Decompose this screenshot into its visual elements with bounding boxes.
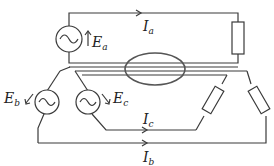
load-b	[38, 71, 270, 143]
arrow-up-icon	[85, 31, 91, 46]
load-a-resistor	[232, 22, 244, 54]
label-Eb: Eb	[3, 90, 20, 108]
load-c	[196, 75, 227, 130]
source-b	[35, 71, 60, 143]
label-Ec: Ec	[112, 90, 128, 108]
load-c-resistor	[202, 86, 224, 114]
arrow-down-right-icon	[102, 94, 110, 104]
current-probe-ellipse	[125, 53, 185, 85]
arrow-down-left-icon	[25, 94, 33, 104]
load-b-resistor	[248, 86, 270, 114]
source-a	[56, 26, 82, 52]
label-Ea: Ea	[91, 34, 108, 52]
label-Ic: Ic	[142, 111, 154, 129]
bundle-wires	[60, 67, 247, 75]
label-Ib: Ib	[142, 149, 155, 166]
loop-a: Ea Ia	[56, 10, 244, 63]
label-Ia: Ia	[142, 18, 154, 36]
circuit-diagram: Ea Ia Eb Ec	[0, 0, 274, 166]
